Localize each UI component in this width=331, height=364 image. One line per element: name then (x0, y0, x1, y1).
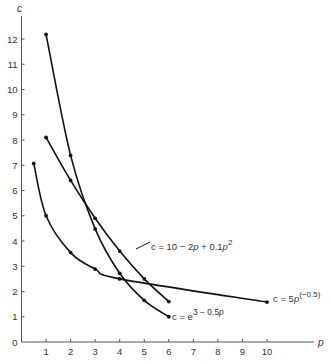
data-point (118, 277, 122, 281)
y-tick-label: 0 (12, 337, 17, 348)
x-tick-label: 3 (93, 346, 98, 357)
axes (22, 16, 315, 342)
data-point (167, 315, 171, 319)
x-tick-label: 9 (240, 346, 245, 357)
y-tick-label: 10 (7, 84, 18, 95)
data-point (93, 227, 97, 231)
data-point (44, 136, 48, 140)
data-point (167, 300, 171, 304)
data-point (69, 179, 73, 183)
x-tick-label: 5 (142, 346, 147, 357)
y-tick-label: 9 (12, 109, 17, 120)
y-axis-label: c (17, 3, 22, 14)
x-axis-label: p (317, 337, 324, 348)
data-point (142, 277, 146, 281)
label-exponential-curve: c = e3 − 0.5p (172, 307, 224, 322)
y-tick-label: 4 (12, 236, 17, 247)
y-tick-label: 2 (12, 286, 17, 297)
data-point (44, 214, 48, 218)
data-point (44, 33, 48, 37)
x-tick-label: 6 (166, 346, 171, 357)
y-tick-label: 3 (12, 261, 17, 272)
chart: 12345678910 0123456789101112 p c c = 5p(… (0, 0, 331, 364)
x-tick-label: 4 (117, 346, 122, 357)
data-point (93, 267, 97, 271)
y-tick-label: 1 (12, 311, 17, 322)
x-tick-label: 10 (262, 346, 273, 357)
data-point (265, 300, 269, 304)
series-labels: c = 5p(−0.5)c = 10 − 2p + 0.1p2c = e3 − … (136, 238, 321, 322)
y-tick-label: 5 (12, 210, 17, 221)
label-leader-line (136, 242, 150, 249)
y-tick-label: 11 (8, 59, 18, 70)
data-point (118, 249, 122, 253)
x-tick-label: 2 (68, 346, 73, 357)
series-c-5p-power (32, 162, 269, 304)
y-tick-label: 12 (7, 34, 18, 45)
data-point (142, 298, 146, 302)
series-group (32, 33, 269, 319)
data-point (118, 271, 122, 275)
x-tick-label: 1 (43, 346, 48, 357)
label-quadratic-curve: c = 10 − 2p + 0.1p2 (151, 238, 233, 252)
data-point (69, 251, 73, 255)
x-tick-label: 7 (191, 346, 196, 357)
data-point (69, 154, 73, 158)
y-tick-label: 6 (12, 185, 17, 196)
y-tick-label: 8 (12, 135, 17, 146)
data-point (32, 162, 36, 166)
x-tick-label: 8 (215, 346, 220, 357)
label-power-curve: c = 5p(−0.5) (273, 290, 321, 304)
data-point (93, 216, 97, 220)
series-c-quadratic (44, 136, 171, 304)
y-tick-label: 7 (12, 160, 17, 171)
